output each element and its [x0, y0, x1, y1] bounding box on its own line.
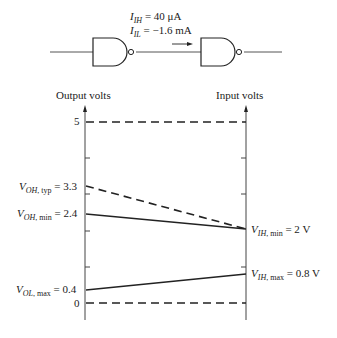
output-volts-title: Output volts: [56, 89, 111, 101]
vol-max-line: [86, 274, 246, 290]
voh-min-label: VOH, min = 2.4: [17, 207, 77, 224]
input-volts-title: Input volts: [216, 89, 263, 101]
input-volts-axis: [241, 105, 248, 320]
vih-max-label: VIH, max = 0.8 V: [251, 267, 320, 284]
vol-max-label: VOL, max = 0.4: [16, 283, 76, 300]
voh-typ-dashed-line: [86, 186, 246, 229]
nand-gate-driver: [93, 38, 134, 66]
iil-label: IIL = −1.6 mA: [130, 24, 192, 41]
output-volts-axis: [83, 105, 90, 320]
voh-min-line: [86, 214, 246, 229]
current-arrow-icon: [172, 42, 193, 46]
voh-typ-label: VOH, typ = 3.3: [19, 180, 77, 197]
nand-gate-load: [201, 38, 242, 66]
tick-5: 5: [74, 115, 80, 127]
vih-min-label: VIH, min = 2 V: [251, 223, 310, 240]
